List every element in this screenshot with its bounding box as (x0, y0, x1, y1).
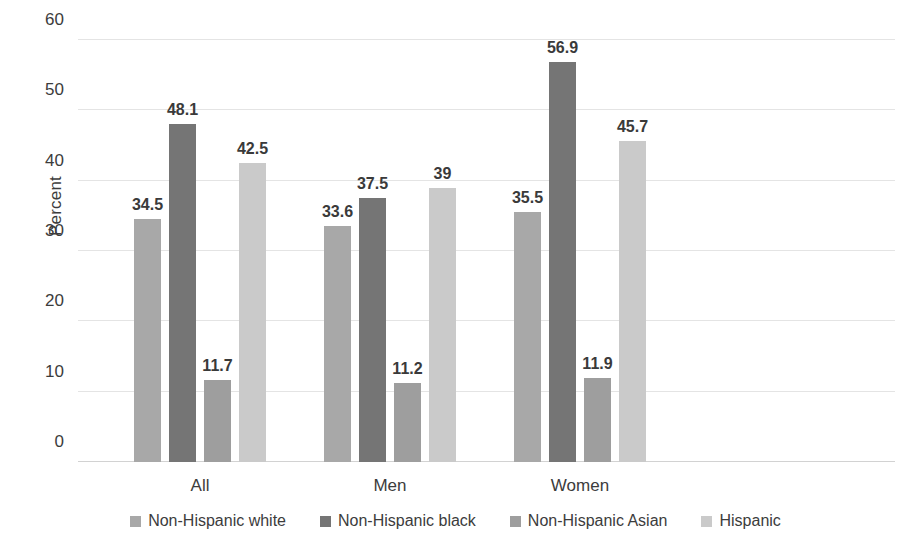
bar-all-series-2: 48.1 (169, 124, 196, 462)
legend-label: Non-Hispanic Asian (528, 512, 668, 530)
cropped-caption-text: · · · · · · · · · · · · · · · · · (0, 545, 911, 555)
y-axis-tick-label: 50 (45, 80, 64, 100)
bar-all-series-3: 11.7 (204, 380, 231, 462)
plot-area: 0102030405060 34.548.111.742.533.637.511… (78, 40, 895, 462)
bar-rect (359, 198, 386, 462)
legend-item-2[interactable]: Non-Hispanic black (320, 512, 476, 530)
bar-all-series-1: 34.5 (134, 219, 161, 462)
y-axis-tick-label: 10 (45, 362, 64, 382)
bar-all-series-4: 42.5 (239, 163, 266, 462)
bar-women-series-3: 11.9 (584, 378, 611, 462)
bar-value-label: 34.5 (132, 196, 163, 214)
bar-value-label: 35.5 (512, 189, 543, 207)
x-axis-tick-label-all: All (191, 476, 210, 496)
legend-swatch-icon (701, 516, 712, 527)
y-axis-tick-label: 30 (45, 221, 64, 241)
bar-value-label: 48.1 (167, 101, 198, 119)
legend-label: Hispanic (719, 512, 780, 530)
bar-men-series-3: 11.2 (394, 383, 421, 462)
x-axis-tick-label-women: Women (551, 476, 609, 496)
x-axis-tick-label-men: Men (373, 476, 406, 496)
bar-value-label: 11.2 (392, 360, 422, 378)
bar-rect (429, 188, 456, 462)
bar-value-label: 39 (434, 165, 452, 183)
bar-rect (239, 163, 266, 462)
bar-value-label: 11.9 (582, 355, 612, 373)
legend-label: Non-Hispanic white (148, 512, 286, 530)
bar-men-series-1: 33.6 (324, 226, 351, 462)
y-axis-tick-label: 60 (45, 10, 64, 30)
y-axis-tick-label: 40 (45, 151, 64, 171)
bar-value-label: 11.7 (202, 357, 232, 375)
bar-rect (584, 378, 611, 462)
bar-value-label: 42.5 (237, 140, 268, 158)
bar-rect (324, 226, 351, 462)
y-axis-tick-label: 20 (45, 291, 64, 311)
bar-group: 35.556.911.945.7 (514, 40, 646, 462)
bar-value-label: 56.9 (547, 39, 578, 57)
legend-item-1[interactable]: Non-Hispanic white (130, 512, 286, 530)
bar-value-label: 37.5 (357, 175, 388, 193)
bar-rect (204, 380, 231, 462)
y-axis-tick-label: 0 (55, 432, 64, 452)
bar-rect (619, 141, 646, 462)
bar-rect (549, 62, 576, 462)
legend-item-3[interactable]: Non-Hispanic Asian (510, 512, 668, 530)
bar-value-label: 45.7 (617, 118, 648, 136)
bar-women-series-4: 45.7 (619, 141, 646, 462)
bar-rect (134, 219, 161, 462)
legend-label: Non-Hispanic black (338, 512, 476, 530)
legend-swatch-icon (130, 516, 141, 527)
chart-legend: Non-Hispanic whiteNon-Hispanic blackNon-… (0, 512, 911, 530)
legend-swatch-icon (510, 516, 521, 527)
bar-group: 33.637.511.239 (324, 40, 456, 462)
bar-value-label: 33.6 (322, 203, 353, 221)
bar-rect (169, 124, 196, 462)
legend-item-4[interactable]: Hispanic (701, 512, 780, 530)
bar-group: 34.548.111.742.5 (134, 40, 266, 462)
bar-rect (394, 383, 421, 462)
bar-rect (514, 212, 541, 462)
bar-men-series-2: 37.5 (359, 198, 386, 462)
bar-men-series-4: 39 (429, 188, 456, 462)
legend-swatch-icon (320, 516, 331, 527)
bar-women-series-1: 35.5 (514, 212, 541, 462)
bar-women-series-2: 56.9 (549, 62, 576, 462)
bar-chart-figure: Percent 0102030405060 34.548.111.742.533… (0, 0, 911, 555)
